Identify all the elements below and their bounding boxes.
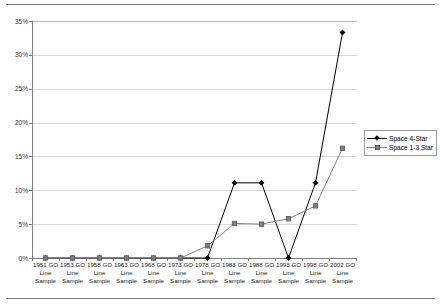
gridline [33,21,357,22]
y-axis-tick-label: 30% [2,51,28,58]
gridline [33,190,357,191]
line-chart: 35%30%25%20%15%10%5%0% 1951 GO Line Samp… [0,0,441,305]
chart-legend[interactable]: Space 4-Star Space 1-3 Star [364,130,437,156]
y-axis-tick-label: 35% [2,18,28,25]
legend-item-space-1-3-star[interactable]: Space 1-3 Star [367,143,433,152]
legend-diamond-marker-icon [367,134,387,143]
legend-square-marker-icon [367,143,387,152]
gridline [33,55,357,56]
chart-page: 35%30%25%20%15%10%5%0% 1951 GO Line Samp… [0,0,441,305]
y-axis-tick-label: 20% [2,119,28,126]
gridline [33,89,357,90]
gridline [33,156,357,157]
y-axis-tick-label: 10% [2,187,28,194]
plot-area [32,21,357,259]
legend-label-space-1-3-star: Space 1-3 Star [387,143,433,152]
gridline [33,224,357,225]
gridline [33,123,357,124]
legend-label-space-4-star: Space 4-Star [387,134,427,143]
legend-item-space-4-star[interactable]: Space 4-Star [367,134,433,143]
y-axis-tick-label: 15% [2,153,28,160]
y-axis-tick-label: 25% [2,85,28,92]
x-axis-tick-label: 2002 GO Line Sample [317,261,369,286]
y-axis-tick-label: 5% [2,221,28,228]
